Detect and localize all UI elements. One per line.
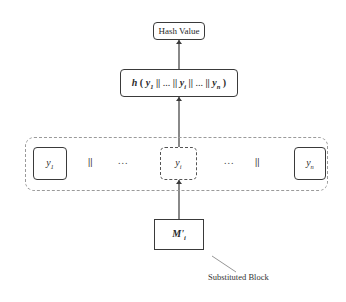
block-label: yi (175, 157, 181, 170)
block-sub: n (311, 163, 314, 170)
block-sub: i (180, 163, 182, 170)
input-label: M'i (172, 228, 185, 241)
hash-value-box: Hash Value (153, 22, 205, 40)
arrowhead-icon (176, 40, 182, 44)
block-sub: 1 (51, 163, 54, 170)
substituted-input-block: M'i (154, 219, 204, 250)
arrowhead-icon (176, 97, 182, 101)
open-paren: ( (140, 77, 143, 88)
ellipsis: ... (163, 77, 171, 88)
block-y1: y1 (33, 147, 67, 180)
block-yn: yn (294, 147, 326, 180)
fn-name: h (132, 77, 138, 88)
concat-separator: || (205, 77, 209, 88)
ellipsis: ... (224, 155, 235, 166)
hash-value-label: Hash Value (158, 26, 199, 36)
term-sub: n (217, 83, 221, 90)
close-paren: ) (223, 77, 226, 88)
concat-separator: || (188, 77, 192, 88)
ellipsis: ... (195, 77, 203, 88)
term-sub: i (184, 83, 186, 90)
concat-separator: || (88, 156, 92, 167)
hash-function-box: h ( y1 || ... || yi || ... || yn ) (120, 69, 238, 97)
hash-function-expression: h ( y1 || ... || yi || ... || yn ) (132, 77, 226, 90)
substituted-block-annotation: Substituted Block (208, 272, 269, 282)
annotation-leader-line (212, 256, 236, 272)
block-label: y1 (46, 157, 54, 170)
block-label: yn (306, 157, 314, 170)
concat-separator: || (173, 77, 177, 88)
concat-separator: || (255, 156, 259, 167)
block-yi-substituted: yi (160, 147, 197, 180)
ellipsis: ... (118, 155, 129, 166)
input-base: M' (172, 228, 184, 239)
term-sub: 1 (150, 83, 153, 90)
input-sub: i (184, 234, 186, 241)
concat-separator: || (156, 77, 160, 88)
